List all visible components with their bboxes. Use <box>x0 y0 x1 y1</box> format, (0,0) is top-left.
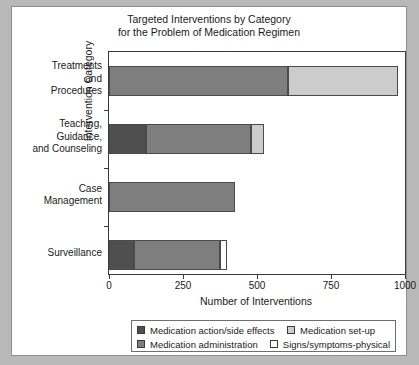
bar-case-management <box>109 182 405 212</box>
x-axis-tick <box>405 274 406 279</box>
legend-swatch-signs-symptoms-physical <box>270 340 278 348</box>
x-axis-tick-label: 1000 <box>375 280 419 291</box>
legend-row: Medication action/side effects Medicatio… <box>137 324 390 336</box>
y-axis-label-line: Treatments <box>0 60 102 73</box>
y-axis-tick-2 <box>104 168 109 169</box>
bar-segment <box>109 124 146 154</box>
legend-label: Medication administration <box>150 339 258 350</box>
legend-item: Medication action/side effects <box>137 325 287 336</box>
x-axis-tick-label: 500 <box>227 280 287 291</box>
y-axis-label-line: Procedures <box>0 85 102 98</box>
bar-segment <box>146 124 251 154</box>
y-axis-label-line: Guidance, <box>0 131 102 144</box>
y-axis-label-line: and Counseling <box>0 143 102 156</box>
bar-segment <box>134 240 220 270</box>
x-axis-tick <box>257 274 258 279</box>
y-axis-tick-1 <box>104 110 109 111</box>
y-axis-label-1: TreatmentsandProcedures <box>0 60 102 98</box>
chart-figure: Targeted Interventions by Category for t… <box>11 6 407 356</box>
legend-row: Medication administration Signs/symptoms… <box>137 338 390 350</box>
chart-title-line2: for the Problem of Medication Regimen <box>12 26 406 39</box>
y-axis-label-3: CaseManagement <box>0 183 102 208</box>
legend-item: Medication set-up <box>287 325 375 336</box>
x-axis-tick <box>183 274 184 279</box>
y-axis-label-line: Case <box>0 183 102 196</box>
y-axis-label-line: Teaching, <box>0 118 102 131</box>
legend-item: Medication administration <box>137 339 270 350</box>
legend-swatch-medication-administration <box>137 340 145 348</box>
bar-segment <box>109 240 134 270</box>
y-axis-label-2: Teaching,Guidance,and Counseling <box>0 118 102 156</box>
x-axis-tick <box>109 274 110 279</box>
bar-segment <box>220 240 227 270</box>
plot-area: 02505007501000 <box>108 51 406 275</box>
legend-label: Medication set-up <box>300 325 375 336</box>
bar-treatments-and-procedures <box>109 66 405 96</box>
bar-segment <box>109 66 288 96</box>
bar-segment <box>288 66 398 96</box>
x-axis-tick <box>331 274 332 279</box>
bar-surveillance <box>109 240 405 270</box>
x-axis-title: Number of Interventions <box>108 295 404 307</box>
chart-title: Targeted Interventions by Category for t… <box>12 13 406 39</box>
y-axis-label-line: and <box>0 73 102 86</box>
y-axis-tick-3 <box>104 226 109 227</box>
x-axis-tick-label: 750 <box>301 280 361 291</box>
legend-swatch-medication-set-up <box>287 326 295 334</box>
x-axis-tick-label: 250 <box>153 280 213 291</box>
y-axis-label-4: Surveillance <box>0 247 102 260</box>
legend-swatch-medication-action-side-effects <box>137 326 145 334</box>
bar-segment <box>109 182 235 212</box>
bar-teaching-guidance-and-counseling <box>109 124 405 154</box>
y-axis-label-line: Management <box>0 195 102 208</box>
y-axis-label-line: Surveillance <box>0 247 102 260</box>
chart-title-line1: Targeted Interventions by Category <box>127 13 290 25</box>
x-axis-tick-label: 0 <box>79 280 139 291</box>
legend-item: Signs/symptoms-physical <box>270 339 390 350</box>
legend-label: Signs/symptoms-physical <box>283 339 390 350</box>
bar-segment <box>251 124 264 154</box>
legend-label: Medication action/side effects <box>150 325 274 336</box>
chart-legend: Medication action/side effects Medicatio… <box>131 320 396 352</box>
